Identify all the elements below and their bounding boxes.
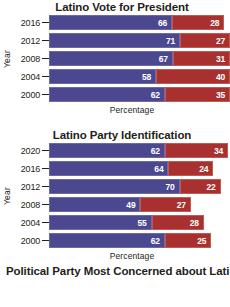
stacked-bar: 5840	[49, 69, 230, 84]
axis-tick-mark	[42, 186, 49, 187]
bar-segment-republican: 28	[172, 15, 224, 30]
axis-tick-mark	[42, 150, 49, 151]
bar-segment-republican: 35	[165, 87, 230, 102]
y-tick-label: 2016	[13, 18, 42, 28]
bar-segment-democratic: 67	[49, 51, 173, 66]
y-tick-label: 2020	[13, 146, 42, 156]
figure-caption: Political Party Most Concerned about Lat…	[0, 265, 230, 277]
bar-rows: 2020623420166424201270222008492720045528…	[13, 142, 230, 249]
bar-segment-democratic: 62	[49, 143, 165, 158]
axis-tick-mark	[42, 204, 49, 205]
bar-segment-republican: 28	[152, 215, 204, 230]
bar-segment-republican: 27	[180, 33, 230, 48]
bar-segment-republican: 40	[156, 69, 230, 84]
stacked-bar: 7127	[49, 33, 230, 48]
bar-segment-republican: 24	[168, 161, 213, 176]
bar-row: 20166628	[13, 14, 230, 31]
stacked-bar: 5528	[49, 215, 230, 230]
bar-row: 20206234	[13, 142, 230, 159]
bar-row: 20045528	[13, 214, 230, 231]
chart-title: Latino Party Identification	[0, 128, 230, 142]
bar-value-label: 35	[216, 90, 229, 100]
bar-segment-republican: 34	[165, 143, 228, 158]
bar-value-label: 34	[214, 146, 227, 156]
bar-segment-democratic: 49	[49, 197, 140, 212]
y-tick-label: 2008	[13, 200, 42, 210]
y-tick-label: 2004	[13, 72, 42, 82]
bar-segment-democratic: 70	[49, 179, 180, 194]
bar-segment-democratic: 62	[49, 87, 165, 102]
stacked-bar: 6234	[49, 143, 230, 158]
bar-value-label: 28	[210, 18, 223, 28]
bar-segment-republican: 22	[180, 179, 221, 194]
bar-segment-democratic: 71	[49, 33, 180, 48]
bar-row: 20006235	[13, 86, 230, 103]
y-axis-title: Year	[0, 142, 13, 249]
bar-value-label: 58	[142, 72, 155, 82]
axis-tick-mark	[42, 76, 49, 77]
stacked-bar: 6628	[49, 15, 230, 30]
bar-value-label: 55	[138, 218, 151, 228]
stacked-bar: 6235	[49, 87, 230, 102]
axis-tick-mark	[42, 240, 49, 241]
y-tick-label: 2000	[13, 236, 42, 246]
axis-tick-mark	[42, 168, 49, 169]
y-tick-label: 2012	[13, 182, 42, 192]
axis-tick-mark	[42, 22, 49, 23]
bar-segment-republican: 25	[165, 233, 212, 248]
chart-gap	[0, 115, 230, 128]
bar-segment-democratic: 64	[49, 161, 168, 176]
y-tick-label: 2000	[13, 90, 42, 100]
bar-segment-republican: 27	[140, 197, 190, 212]
bar-rows: 2016662820127127200867312004584020006235	[13, 14, 230, 103]
bar-row: 20086731	[13, 50, 230, 67]
bar-row: 20006225	[13, 232, 230, 249]
x-axis-title: Percentage	[0, 249, 230, 261]
axis-tick-mark	[42, 94, 49, 95]
bar-value-label: 25	[197, 236, 210, 246]
stacked-bar: 6225	[49, 233, 230, 248]
bar-value-label: 62	[151, 146, 164, 156]
bar-value-label: 67	[159, 54, 172, 64]
y-tick-label: 2008	[13, 54, 42, 64]
plot-area: Year 20206234201664242012702220084927200…	[0, 142, 230, 249]
y-axis-title: Year	[0, 14, 13, 103]
x-axis-title: Percentage	[0, 103, 230, 115]
bar-value-label: 40	[216, 72, 229, 82]
bar-segment-democratic: 55	[49, 215, 152, 230]
y-tick-label: 2004	[13, 218, 42, 228]
chart-latino-vote-for-president: Latino Vote for President Year 201666282…	[0, 0, 230, 115]
y-axis-title-text: Year	[2, 50, 12, 68]
bar-value-label: 66	[158, 18, 171, 28]
axis-tick-mark	[42, 222, 49, 223]
bar-row: 20166424	[13, 160, 230, 177]
axis-tick-mark	[42, 58, 49, 59]
bar-value-label: 64	[154, 164, 167, 174]
bar-value-label: 28	[190, 218, 203, 228]
bar-value-label: 22	[207, 182, 220, 192]
stacked-bar: 6424	[49, 161, 230, 176]
y-tick-label: 2016	[13, 164, 42, 174]
bar-value-label: 27	[216, 36, 229, 46]
y-tick-label: 2012	[13, 36, 42, 46]
plot-area: Year 20166628201271272008673120045840200…	[0, 14, 230, 103]
bar-value-label: 62	[151, 90, 164, 100]
bar-row: 20045840	[13, 68, 230, 85]
stacked-bar: 6731	[49, 51, 230, 66]
bar-segment-democratic: 66	[49, 15, 172, 30]
bar-value-label: 31	[216, 54, 229, 64]
bar-row: 20084927	[13, 196, 230, 213]
bar-value-label: 62	[151, 236, 164, 246]
figure-root: Latino Vote for President Year 201666282…	[0, 0, 230, 277]
bar-value-label: 49	[126, 200, 139, 210]
bar-row: 20127022	[13, 178, 230, 195]
bar-value-label: 71	[166, 36, 179, 46]
chart-title: Latino Vote for President	[0, 0, 230, 14]
bar-value-label: 24	[199, 164, 212, 174]
stacked-bar: 7022	[49, 179, 230, 194]
bar-segment-democratic: 62	[49, 233, 165, 248]
axis-tick-mark	[42, 40, 49, 41]
bar-value-label: 27	[177, 200, 190, 210]
stacked-bar: 4927	[49, 197, 230, 212]
y-axis-title-text: Year	[2, 187, 12, 205]
